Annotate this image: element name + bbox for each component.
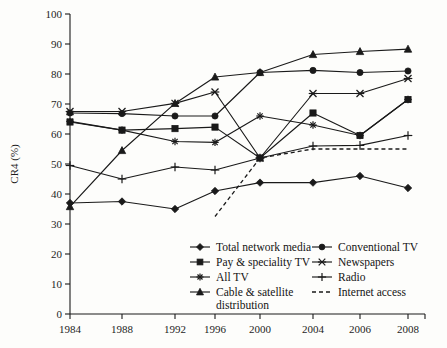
data-point-marker-diamond [118,198,125,205]
legend-item-label: Internet access [338,286,407,298]
x-tick-label: 2000 [249,323,272,335]
data-point-marker-circle [319,244,325,250]
data-point-marker-cross-x [318,259,326,266]
legend-item-label: Radio [338,271,366,283]
x-tick-label: 1988 [111,323,134,335]
data-point-marker-diamond [211,187,218,194]
y-tick-label: 30 [51,218,63,230]
data-point-marker-circle [405,68,411,74]
legend-item-label: Total network media [216,241,311,253]
x-tick-label: 1984 [59,323,82,335]
legend-item-label: Conventional TV [338,241,419,253]
y-tick-label: 50 [51,158,63,170]
data-point-marker-diamond [256,179,263,186]
y-tick-label: 70 [51,98,63,110]
legend-item-newspapers[interactable]: Newspapers [312,256,395,269]
x-tick-label: 1992 [164,323,186,335]
data-point-marker-star [118,126,125,133]
data-point-marker-cross-x [211,89,220,96]
data-point-marker-square [172,126,178,132]
y-tick-label: 60 [51,128,63,140]
data-point-marker-star [256,112,263,119]
data-point-marker-star [404,96,411,103]
chart-legend: Total network mediaConventional TVPay & … [190,241,419,311]
data-point-marker-plus [211,166,220,175]
data-point-marker-star [356,132,363,139]
data-point-marker-circle [172,113,178,119]
y-tick-label: 80 [51,68,63,80]
x-tick-label: 2004 [302,323,325,335]
y-axis-ticks: 0102030405060708090100 [46,8,71,320]
y-tick-label: 20 [51,248,63,260]
data-point-marker-circle [357,69,363,75]
data-point-marker-star [211,139,218,146]
legend-item-pay-speciality-tv[interactable]: Pay & speciality TV [190,256,311,269]
chart-container: 0102030405060708090100198419881992199620… [0,0,447,348]
series-all-tv [66,96,411,146]
y-tick-label: 100 [46,8,63,20]
legend-item-label-line2: distribution [216,299,269,311]
legend-item-label: Newspapers [338,256,395,269]
legend-item-radio[interactable]: Radio [312,271,366,283]
data-point-marker-diamond [309,179,316,186]
legend-item-label: Cable & satellite [216,286,293,298]
data-point-marker-star [171,138,178,145]
data-point-marker-plus [118,175,127,184]
data-point-marker-diamond [356,172,363,179]
x-tick-label: 2008 [397,323,420,335]
legend-item-total-network-media[interactable]: Total network media [190,241,311,253]
legend-item-all-tv[interactable]: All TV [190,271,249,283]
data-point-marker-star [66,118,73,125]
data-point-marker-cross-x [309,90,318,97]
data-point-marker-diamond [197,244,204,251]
series-line [70,136,408,180]
legend-item-label: All TV [216,271,249,283]
data-point-marker-square [310,110,316,116]
y-tick-label: 90 [51,38,63,50]
data-point-marker-square [212,124,218,130]
y-tick-label: 40 [51,188,63,200]
y-tick-label: 0 [57,308,63,320]
x-axis-ticks: 19841988199219962000200420062008 [59,314,425,335]
line-chart: 0102030405060708090100198419881992199620… [0,0,447,348]
x-tick-label: 1996 [204,323,227,335]
data-point-marker-plus [171,163,180,172]
data-point-marker-cross-x [404,75,413,82]
data-point-marker-star [197,274,204,281]
data-point-marker-circle [212,113,218,119]
data-point-marker-circle [310,67,316,73]
plot-area [66,45,413,216]
data-point-marker-plus [318,273,326,281]
y-tick-label: 10 [51,278,63,290]
data-point-marker-cross-x [356,90,365,97]
legend-item-cable-satellite[interactable]: Cable & satellitedistribution [190,286,293,311]
legend-item-label: Pay & speciality TV [216,256,311,269]
data-point-marker-star [309,121,316,128]
data-point-marker-square [197,259,203,265]
legend-item-internet-access[interactable]: Internet access [312,286,407,298]
legend-item-conventional-tv[interactable]: Conventional TV [312,241,419,253]
data-point-marker-diamond [404,184,411,191]
data-point-marker-plus [404,131,413,140]
data-point-marker-plus [66,161,75,170]
data-point-marker-diamond [171,205,178,212]
x-tick-label: 2006 [349,323,372,335]
y-axis-title: CR4 (%) [8,144,21,184]
axes [70,14,425,314]
